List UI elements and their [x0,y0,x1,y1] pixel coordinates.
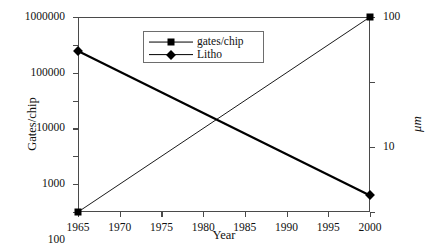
x-tick: 1995 [328,212,329,217]
y-tick-right: 1 [370,147,375,148]
x-tick: 1985 [245,212,246,217]
chart-figure: Gates/chip μm Year 100000010000010000100… [0,0,427,248]
x-tick-label: 1970 [108,222,131,234]
series-lines [78,17,370,212]
x-tick: 1975 [161,212,162,217]
x-tick-label: 1980 [192,222,215,234]
plot-area: 10000001000001000010001001010.1 1001010.… [78,17,370,212]
x-tick: 1990 [287,212,288,217]
y-tick-label-left: 1000000 [25,11,65,23]
y-tick-label-right: 10 [383,141,395,153]
x-axis-title: Year [212,228,235,243]
y-tick-label-left: 10000 [36,123,65,135]
y-axis-title-right: μm [409,116,425,132]
y-tick-label-right: 100 [383,11,400,23]
x-tick: 1980 [203,212,204,217]
x-tick: 2000 [370,212,371,217]
x-tick-label: 1965 [67,222,90,234]
x-tick-label: 1975 [150,222,173,234]
series-line-litho [78,51,370,195]
x-tick: 1970 [120,212,121,217]
x-tick-label: 2000 [359,222,382,234]
y-tick-label-left: 1000 [42,178,65,190]
data-point-square [367,14,374,21]
y-tick-label-left: 100 [48,234,65,246]
data-point-square [75,209,82,216]
series-line-gates-chip [78,17,370,212]
y-tick-label-left: 100000 [31,67,66,79]
x-tick-label: 1990 [275,222,298,234]
x-tick-label: 1995 [317,222,340,234]
x-tick-label: 1985 [233,222,256,234]
y-tick-right: 10 [370,82,375,83]
